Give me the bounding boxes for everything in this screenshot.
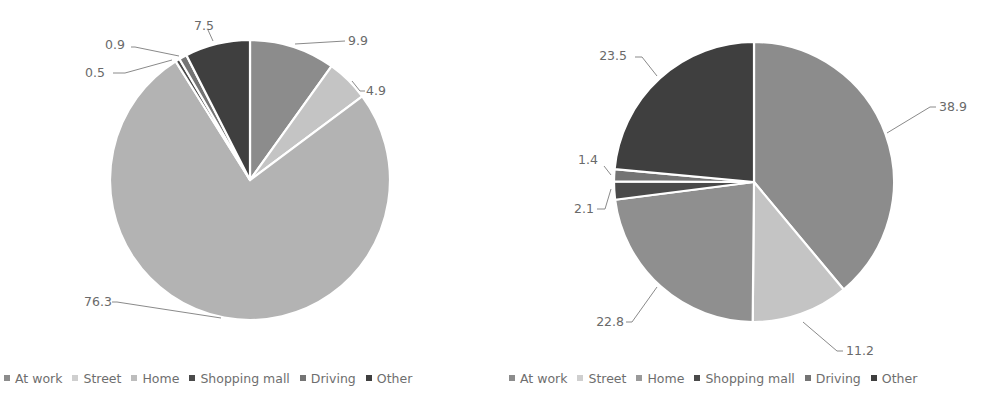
- legend-label: Other: [377, 371, 413, 386]
- legend-item-shopping-mall[interactable]: Shopping mall: [694, 371, 794, 386]
- legend-left: At work Street Home Shopping mall Drivin…: [0, 368, 503, 388]
- legend-label: Street: [588, 371, 626, 386]
- data-label-shopping-mall: 2.1: [574, 201, 594, 216]
- legend-item-driving[interactable]: Driving: [805, 371, 861, 386]
- pie-chart-right: 38.911.222.82.11.423.5 At work Street Ho…: [499, 0, 998, 403]
- legend-swatch-icon: [509, 375, 515, 381]
- data-label-other: 7.5: [194, 18, 214, 33]
- legend-label: Shopping mall: [200, 371, 289, 386]
- data-label-street: 4.9: [366, 83, 386, 98]
- legend-label: Other: [882, 371, 918, 386]
- legend-label: Home: [647, 371, 684, 386]
- legend-label: At work: [520, 371, 567, 386]
- legend-swatch-icon: [694, 375, 700, 381]
- legend-label: Driving: [816, 371, 861, 386]
- data-label-at-work: 38.9: [939, 99, 967, 114]
- pie-chart-left: 9.94.976.30.50.97.5 At work Street Home …: [0, 0, 499, 403]
- leader-line: [803, 322, 843, 351]
- legend-right: At work Street Home Shopping mall Drivin…: [499, 368, 998, 388]
- legend-item-other[interactable]: Other: [366, 371, 413, 386]
- legend-item-shopping-mall[interactable]: Shopping mall: [189, 371, 289, 386]
- leader-line: [295, 41, 345, 44]
- data-label-driving: 1.4: [578, 152, 598, 167]
- pie-slice-home[interactable]: [615, 182, 754, 322]
- data-label-other: 23.5: [599, 48, 627, 63]
- legend-item-at-work[interactable]: At work: [4, 371, 62, 386]
- legend-swatch-icon: [636, 375, 642, 381]
- data-label-at-work: 9.9: [348, 33, 368, 48]
- legend-item-home[interactable]: Home: [131, 371, 179, 386]
- pie-left-svg: 9.94.976.30.50.97.5: [0, 0, 499, 360]
- leader-line: [597, 189, 611, 209]
- legend-label: Home: [142, 371, 179, 386]
- leader-line: [635, 57, 657, 76]
- leader-line: [604, 166, 611, 175]
- legend-label: Shopping mall: [705, 371, 794, 386]
- legend-swatch-icon: [4, 375, 10, 381]
- legend-swatch-icon: [577, 375, 583, 381]
- legend-item-street[interactable]: Street: [577, 371, 626, 386]
- legend-item-driving[interactable]: Driving: [300, 371, 356, 386]
- legend-item-other[interactable]: Other: [871, 371, 918, 386]
- legend-swatch-icon: [72, 375, 78, 381]
- data-label-street: 11.2: [846, 343, 874, 358]
- legend-item-street[interactable]: Street: [72, 371, 121, 386]
- legend-swatch-icon: [366, 375, 372, 381]
- legend-item-at-work[interactable]: At work: [509, 371, 567, 386]
- leader-line: [131, 47, 179, 56]
- legend-swatch-icon: [300, 375, 306, 381]
- legend-swatch-icon: [871, 375, 877, 381]
- legend-swatch-icon: [805, 375, 811, 381]
- data-label-home: 76.3: [84, 294, 112, 309]
- pie-right-svg: 38.911.222.82.11.423.5: [499, 0, 998, 360]
- data-label-driving: 0.9: [105, 37, 125, 52]
- legend-label: At work: [15, 371, 62, 386]
- leader-line: [887, 107, 936, 133]
- legend-label: Street: [83, 371, 121, 386]
- data-label-shopping-mall: 0.5: [85, 65, 105, 80]
- legend-swatch-icon: [131, 375, 137, 381]
- legend-label: Driving: [311, 371, 356, 386]
- pie-slice-other[interactable]: [615, 42, 754, 182]
- leader-line: [626, 287, 657, 322]
- legend-item-home[interactable]: Home: [636, 371, 684, 386]
- data-label-home: 22.8: [596, 314, 624, 329]
- legend-swatch-icon: [189, 375, 195, 381]
